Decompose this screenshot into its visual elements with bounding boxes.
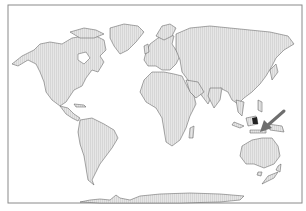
highlight-region (252, 117, 258, 124)
world-map (0, 0, 306, 211)
world-map-svg (0, 0, 306, 211)
